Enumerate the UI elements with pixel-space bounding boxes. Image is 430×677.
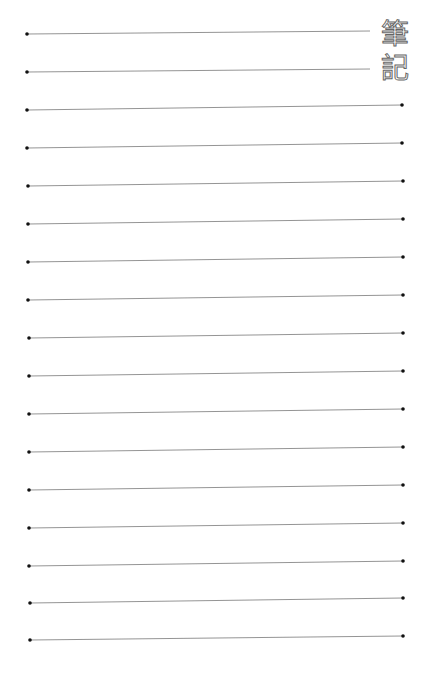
title-char-1: 筆: [378, 18, 412, 52]
line-dot-right: [401, 596, 405, 600]
line-dot-left: [28, 638, 32, 642]
line-dot-right: [401, 217, 405, 221]
page-title: 筆 記: [378, 18, 412, 86]
line-dot-left: [26, 260, 30, 264]
line-dot-left: [27, 450, 31, 454]
line-dot-left: [28, 601, 32, 605]
line-dot-right: [401, 483, 405, 487]
ruled-line: [25, 103, 404, 112]
ruled-line: [27, 445, 405, 454]
line-dot-left: [25, 108, 29, 112]
ruled-line: [26, 217, 405, 226]
line-dot-right: [401, 634, 405, 638]
ruled-line: [25, 141, 404, 150]
ruled-line: [27, 407, 405, 416]
ruled-line: [25, 31, 370, 36]
line-dot-right: [401, 559, 405, 563]
ruled-line: [27, 559, 405, 568]
ruled-line: [28, 596, 405, 605]
line-dot-left: [27, 336, 31, 340]
ruled-line: [26, 179, 405, 188]
ruled-line: [26, 255, 405, 264]
line-dot-left: [27, 374, 31, 378]
line-dot-left: [26, 222, 30, 226]
line-dot-left: [26, 184, 30, 188]
line-dot-left: [25, 146, 29, 150]
line-dot-right: [401, 445, 405, 449]
ruled-line: [25, 69, 370, 74]
line-dot-right: [400, 103, 404, 107]
ruled-line: [27, 521, 405, 530]
ruled-line: [26, 293, 405, 302]
line-dot-left: [27, 412, 31, 416]
line-dot-right: [401, 255, 405, 259]
title-char-2: 記: [378, 52, 412, 86]
ruled-line: [27, 369, 405, 378]
line-dot-left: [27, 526, 31, 530]
ruled-line: [27, 483, 405, 492]
line-dot-right: [401, 521, 405, 525]
line-dot-right: [401, 331, 405, 335]
line-dot-right: [400, 141, 404, 145]
line-dot-left: [25, 32, 29, 36]
line-dot-left: [26, 298, 30, 302]
line-dot-left: [27, 488, 31, 492]
ruled-line: [27, 331, 405, 340]
line-dot-right: [401, 179, 405, 183]
line-dot-left: [27, 564, 31, 568]
line-dot-right: [401, 293, 405, 297]
notebook-page: 筆 記: [0, 0, 430, 677]
line-dot-right: [401, 369, 405, 373]
ruled-line: [28, 634, 405, 642]
ruled-lines: [0, 0, 430, 677]
line-dot-left: [25, 70, 29, 74]
line-dot-right: [401, 407, 405, 411]
